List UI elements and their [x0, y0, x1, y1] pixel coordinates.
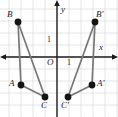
y-unit-tick-label: 1 [47, 36, 51, 44]
x-unit-tick-label: 1 [67, 59, 71, 67]
vertex-label-a: A [9, 79, 15, 88]
vertex-a [18, 82, 25, 89]
vertex-label-b-prime: B' [96, 10, 103, 19]
vertex-label-c-prime: C' [61, 101, 69, 110]
vertex-label-b: B [7, 10, 13, 19]
x-axis-label: x [99, 43, 103, 52]
y-axis-label: y [61, 5, 65, 14]
vertex-b [15, 19, 22, 26]
vertex-a-prime [89, 82, 96, 89]
vertex-label-a-prime: A' [97, 79, 104, 88]
vertex-b-prime [92, 19, 99, 26]
origin-label: O [47, 58, 54, 67]
y-axis [54, 0, 60, 117]
vertex-label-c: C [41, 101, 47, 110]
x-axis [0, 54, 118, 60]
coordinate-plane-figure: B A C B' A' C' y x O 1 1 [0, 0, 118, 117]
